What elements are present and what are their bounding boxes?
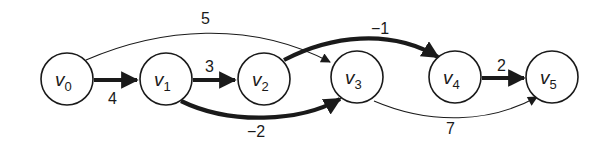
- node-v3: v3: [331, 51, 383, 103]
- edge-v0-v1: 4: [94, 80, 137, 107]
- weight-v3-v5: 7: [446, 120, 455, 137]
- weight-v0-v1: 4: [108, 90, 117, 107]
- graph-diagram: 5 −1 4 3 −2 2 7 v0 v1 v2 v3: [0, 0, 610, 149]
- weight-v1-v3: −2: [247, 123, 265, 140]
- node-v0: v0: [41, 53, 93, 105]
- weight-v0-v3: 5: [201, 10, 210, 27]
- edge-v4-v5: 2: [482, 57, 524, 78]
- node-v2: v2: [238, 53, 290, 105]
- weight-v2-v4: −1: [371, 20, 389, 37]
- node-v5: v5: [526, 51, 578, 103]
- edge-v1-v2: 3: [193, 58, 235, 80]
- node-v1: v1: [140, 53, 192, 105]
- weight-v4-v5: 2: [497, 57, 506, 74]
- weight-v1-v2: 3: [205, 58, 214, 75]
- node-v4: v4: [429, 51, 481, 103]
